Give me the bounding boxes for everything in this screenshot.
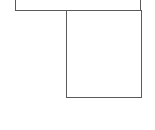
bottom-rectangle [66,10,142,98]
diagram-canvas [0,0,155,130]
